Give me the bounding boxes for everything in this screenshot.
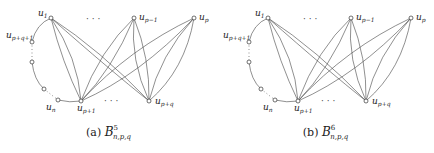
svg-text:up+1: up+1 bbox=[294, 103, 312, 115]
graph-b6: u1 up−1 up up+q+1 un up+1 up+q · · · · ·… bbox=[217, 0, 434, 120]
svg-text:up+q+1: up+q+1 bbox=[6, 30, 33, 42]
svg-text:u1: u1 bbox=[38, 8, 48, 19]
caption-a: (a) B5n,p,q bbox=[0, 124, 217, 141]
svg-text:u1: u1 bbox=[255, 8, 265, 19]
svg-text:· · ·: · · · bbox=[104, 96, 118, 106]
svg-text:up+1: up+1 bbox=[77, 103, 95, 115]
graph-b5: u1 up−1 up up+q+1 un up+1 up+q · · · · ·… bbox=[0, 0, 217, 120]
svg-text:· · ·: · · · bbox=[303, 14, 317, 24]
svg-text:up+q: up+q bbox=[155, 96, 174, 108]
caption-b: (b) B6n,p,q bbox=[217, 124, 434, 141]
svg-text:un: un bbox=[46, 102, 56, 113]
svg-text:up−1: up−1 bbox=[139, 12, 157, 24]
svg-text:un: un bbox=[263, 102, 273, 113]
figure-a: u1 up−1 up up+q+1 un up+1 up+q · · · · ·… bbox=[0, 0, 217, 153]
figure-b: u1 up−1 up up+q+1 un up+1 up+q · · · · ·… bbox=[217, 0, 434, 153]
svg-text:up+q+1: up+q+1 bbox=[223, 30, 250, 42]
svg-text:· · ·: · · · bbox=[321, 96, 335, 106]
svg-text:up+q: up+q bbox=[372, 96, 391, 108]
svg-text:up: up bbox=[416, 12, 426, 24]
svg-text:up: up bbox=[199, 12, 209, 24]
svg-text:up−1: up−1 bbox=[356, 12, 374, 24]
svg-text:· · ·: · · · bbox=[86, 14, 100, 24]
